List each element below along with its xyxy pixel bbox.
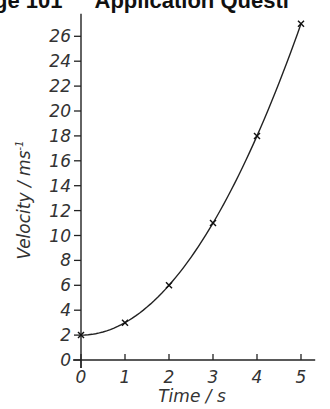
x-tick-label: 0 <box>76 367 87 387</box>
y-tick-label: 4 <box>60 300 71 320</box>
x-tick: 3 <box>208 354 219 387</box>
velocity-time-chart: 02468101214161820222426 012345 Time / s … <box>0 0 330 409</box>
y-tick: 20 <box>49 101 81 121</box>
data-point-markers <box>78 21 304 338</box>
y-tick: 6 <box>60 275 81 295</box>
y-tick: 26 <box>49 26 81 46</box>
x-tick: 5 <box>296 354 307 387</box>
y-tick: 12 <box>49 201 81 221</box>
y-axis-ticks: 02468101214161820222426 <box>49 26 81 370</box>
y-tick-label: 12 <box>49 201 71 221</box>
y-tick: 14 <box>49 176 81 196</box>
y-tick-label: 0 <box>60 350 71 370</box>
y-tick-label: 2 <box>60 325 71 345</box>
data-point-marker <box>166 282 172 288</box>
y-tick-label: 20 <box>49 101 71 121</box>
y-tick: 4 <box>60 300 81 320</box>
x-tick: 1 <box>120 354 131 387</box>
data-point-marker <box>122 320 128 326</box>
y-tick: 10 <box>49 226 81 246</box>
data-point-marker <box>298 21 304 27</box>
y-tick: 2 <box>60 325 81 345</box>
x-axis-title: Time / s <box>158 386 226 406</box>
x-tick: 4 <box>252 354 263 387</box>
x-tick-label: 3 <box>208 367 219 387</box>
x-tick-label: 5 <box>296 367 307 387</box>
y-tick-label: 16 <box>49 151 71 171</box>
data-point-marker <box>210 220 216 226</box>
x-tick-label: 4 <box>252 367 263 387</box>
y-axis-title: Velocity / ms-1 <box>14 141 34 260</box>
y-tick: 16 <box>49 151 81 171</box>
y-tick: 18 <box>49 126 81 146</box>
y-tick-label: 10 <box>49 226 71 246</box>
y-tick-label: 24 <box>49 51 71 71</box>
y-tick: 24 <box>49 51 81 71</box>
data-point-marker <box>254 133 260 139</box>
y-tick-label: 22 <box>49 76 71 96</box>
velocity-curve <box>81 24 301 335</box>
x-tick-label: 1 <box>120 367 131 387</box>
y-tick-label: 18 <box>49 126 71 146</box>
y-tick-label: 14 <box>49 176 71 196</box>
x-tick: 2 <box>164 354 175 387</box>
y-tick-label: 8 <box>60 250 71 270</box>
y-tick: 22 <box>49 76 81 96</box>
x-tick-label: 2 <box>164 367 175 387</box>
y-tick-label: 26 <box>49 26 71 46</box>
y-tick: 8 <box>60 250 81 270</box>
y-tick-label: 6 <box>60 275 71 295</box>
x-axis-ticks: 012345 <box>76 354 307 387</box>
